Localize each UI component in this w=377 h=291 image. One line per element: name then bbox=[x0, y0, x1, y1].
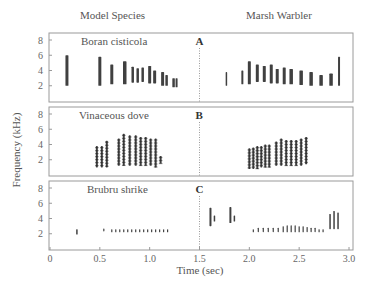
y-tick-label: 2 bbox=[38, 228, 43, 239]
y-tick-label: 4 bbox=[38, 213, 43, 224]
y-tick-label: 8 bbox=[38, 183, 43, 194]
marsh-warbler-notes bbox=[209, 207, 338, 232]
x-tick-label: 1.0 bbox=[143, 253, 156, 264]
species-title: Brubru shrike bbox=[87, 183, 148, 195]
model-species-notes bbox=[95, 134, 162, 168]
y-tick-label: 2 bbox=[38, 154, 43, 165]
x-tick-label: 0.5 bbox=[94, 253, 107, 264]
panel-c: 2468CBrubru shrike bbox=[38, 181, 353, 250]
y-tick-label: 6 bbox=[38, 198, 43, 209]
x-tick-label: 3.0 bbox=[343, 253, 356, 264]
species-title: Boran cisticola bbox=[81, 35, 147, 47]
y-tick-label: 8 bbox=[38, 35, 43, 46]
y-tick-label: 2 bbox=[38, 80, 43, 91]
y-tick-label: 4 bbox=[38, 139, 43, 150]
species-title: Vinaceous dove bbox=[79, 109, 149, 121]
spectrogram-chart: 2468ABoran cisticola2468BVinaceous dove2… bbox=[0, 0, 377, 291]
x-tick-label: 1.5 bbox=[193, 253, 206, 264]
panel-a: 2468ABoran cisticola bbox=[38, 33, 353, 102]
y-tick-label: 8 bbox=[38, 109, 43, 120]
y-tick-label: 6 bbox=[38, 50, 43, 61]
marsh-warbler-notes bbox=[226, 57, 340, 86]
x-tick-label: 0 bbox=[48, 253, 53, 264]
x-tick-label: 2.5 bbox=[293, 253, 306, 264]
marsh-warbler-notes bbox=[248, 137, 308, 169]
model-species-notes bbox=[65, 55, 177, 87]
model-species-notes bbox=[76, 228, 168, 234]
panel-letter: B bbox=[196, 109, 204, 121]
panel-b: 2468BVinaceous dove bbox=[38, 107, 353, 176]
panel-letter: A bbox=[196, 35, 204, 47]
y-tick-label: 6 bbox=[38, 124, 43, 135]
panel-letter: C bbox=[196, 183, 204, 195]
y-tick-label: 4 bbox=[38, 65, 43, 76]
x-tick-label: 2.0 bbox=[243, 253, 256, 264]
